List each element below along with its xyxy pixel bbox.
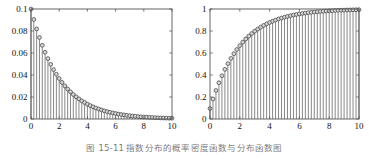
y-tick-label: 0.8 xyxy=(195,26,207,36)
x-tick-label: 8 xyxy=(142,121,147,131)
x-tick-label: 4 xyxy=(267,121,272,131)
x-tick-label: 4 xyxy=(85,121,90,131)
figure-container: 024681000.020.040.060.080.1 024681000.20… xyxy=(0,0,369,159)
x-tick-label: 8 xyxy=(327,121,332,131)
y-tick-label: 0.1 xyxy=(16,4,27,14)
x-tick-label: 0 xyxy=(29,121,34,131)
y-tick-label: 0.06 xyxy=(12,48,28,58)
x-tick-label: 6 xyxy=(113,121,118,131)
y-tick-label: 0 xyxy=(23,114,28,124)
figure-caption-number: 图 15-11 xyxy=(86,143,124,153)
exponential-cdf-svg: 024681000.20.40.60.81 xyxy=(180,0,369,140)
figure-caption: 图 15-11指数分布的概率密度函数与分布函数图 xyxy=(0,143,369,154)
plot-exponential-pdf: 024681000.020.040.060.080.1 xyxy=(0,0,180,140)
x-tick-label: 10 xyxy=(168,121,178,131)
stem-lines xyxy=(210,10,359,119)
y-tick-label: 0.4 xyxy=(195,70,207,80)
y-tick-label: 0.02 xyxy=(12,92,28,102)
exponential-pdf-svg: 024681000.020.040.060.080.1 xyxy=(0,0,180,140)
x-tick-label: 2 xyxy=(238,121,243,131)
x-tick-label: 6 xyxy=(297,121,302,131)
x-tick-label: 0 xyxy=(208,121,213,131)
y-tick-label: 0 xyxy=(202,114,207,124)
tick-labels: 024681000.20.40.60.81 xyxy=(195,4,364,131)
y-tick-label: 1 xyxy=(202,4,207,14)
plot-exponential-cdf: 024681000.20.40.60.81 xyxy=(180,0,369,140)
y-tick-label: 0.04 xyxy=(12,70,28,80)
figure-caption-text: 指数分布的概率密度函数与分布函数图 xyxy=(126,143,282,153)
y-tick-label: 0.6 xyxy=(195,48,207,58)
x-tick-label: 2 xyxy=(57,121,62,131)
y-tick-label: 0.2 xyxy=(195,92,206,102)
x-tick-label: 10 xyxy=(355,121,365,131)
plots-row: 024681000.020.040.060.080.1 024681000.20… xyxy=(0,0,369,140)
y-tick-label: 0.08 xyxy=(12,26,28,36)
